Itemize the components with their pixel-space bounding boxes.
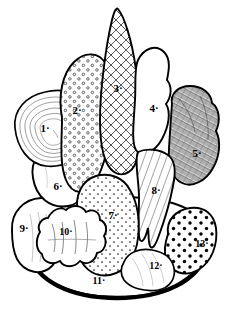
label-8: 8· xyxy=(151,185,160,196)
label-12: 12· xyxy=(149,261,162,271)
label-5: 5· xyxy=(192,148,201,159)
label-7: 7· xyxy=(108,210,117,221)
line-art-drawing xyxy=(0,0,233,318)
label-10: 10· xyxy=(59,227,72,237)
label-3: 3· xyxy=(113,83,122,94)
label-13: 13· xyxy=(195,239,208,249)
label-2: 2· xyxy=(72,105,81,116)
region-5-rough-textured-blob xyxy=(169,86,219,185)
region-12-plain-lower-right-lobe xyxy=(121,250,174,291)
label-1: 1· xyxy=(40,123,49,134)
label-4: 4· xyxy=(149,103,158,114)
illustration-figure: 1· 2· 3· 4· 5· 6· 7· 8· 9· 10· 11· 12· 1… xyxy=(0,0,233,318)
label-9: 9· xyxy=(19,223,28,234)
label-11: 11· xyxy=(93,276,106,286)
label-6: 6· xyxy=(53,181,62,192)
